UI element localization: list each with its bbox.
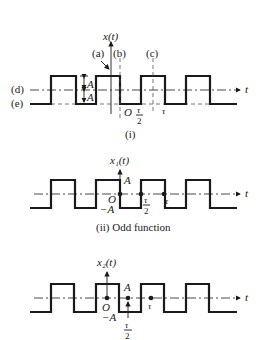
label-b: (b): [113, 47, 126, 60]
amp-neg-ii: −A: [100, 203, 114, 215]
tick-half-den-i: 2: [137, 116, 142, 126]
half-period-dot-ii: [139, 192, 144, 197]
x-label-iii: t: [245, 291, 249, 303]
label-c: (c): [146, 47, 159, 60]
tick-half-num-ii: τ: [144, 195, 148, 205]
x-label-i: t: [245, 83, 249, 95]
square-wave-figure: x(t) (a) (b) (c) (d) (e) A A t O τ 2 τ (…: [0, 0, 265, 340]
label-d: (d): [11, 83, 24, 96]
pointer-a: [101, 61, 109, 69]
caption-i: (i): [125, 128, 136, 141]
amp-pos-iii: A: [123, 281, 131, 293]
period-dot-iii: [149, 296, 154, 301]
origin-dot-iii: [105, 296, 110, 301]
panel-ii: x₁(t) A O −A τ 2 τ t (ii) Odd function: [30, 154, 249, 234]
half-period-dot-iii: [126, 296, 131, 301]
tick-period-i: τ: [162, 106, 166, 116]
tick-period-ii: τ: [165, 196, 169, 206]
panel-i: x(t) (a) (b) (c) (d) (e) A A t O τ 2 τ (…: [11, 30, 249, 141]
tick-half-den-iii: 2: [125, 331, 130, 340]
y-label-ii: x₁(t): [109, 154, 129, 167]
y-label-iii: x₂(t): [96, 256, 116, 269]
x-label-ii: t: [245, 187, 249, 199]
amp-neg-iii: −A: [102, 311, 116, 323]
tick-half-num-i: τ: [137, 105, 141, 115]
label-e: (e): [11, 97, 24, 110]
tick-half-num-iii: τ: [125, 320, 129, 330]
panel-iii: x₂(t) A O −A τ 2 τ t: [30, 256, 249, 340]
origin-label-i: O: [124, 106, 132, 118]
amp-pos-ii: A: [123, 174, 131, 186]
y-label-i: x(t): [102, 30, 119, 43]
amp-label-lower: A: [86, 91, 94, 103]
caption-ii: (ii) Odd function: [96, 221, 171, 234]
origin-dot-ii: [118, 192, 123, 197]
amp-label-upper: A: [86, 78, 94, 90]
tick-half-den-ii: 2: [144, 206, 149, 216]
tick-period-iii: τ: [148, 301, 152, 311]
label-a: (a): [92, 47, 105, 60]
